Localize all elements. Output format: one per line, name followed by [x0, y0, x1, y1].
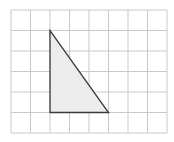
grid-lines	[11, 10, 167, 133]
grid-diagram	[0, 0, 174, 142]
